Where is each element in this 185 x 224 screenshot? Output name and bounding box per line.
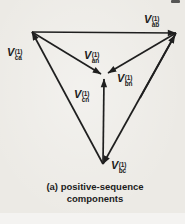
- label-vab-base: V: [144, 13, 151, 25]
- label-van: V(1)an: [84, 45, 99, 64]
- label-vca-sub: ca: [15, 55, 22, 61]
- label-vab-sub: ab: [152, 22, 159, 28]
- label-vbn-base: V: [117, 72, 124, 84]
- label-van-base: V: [84, 49, 91, 61]
- label-vca-base: V: [7, 46, 14, 58]
- label-vbn-sub: bn: [125, 81, 133, 87]
- scanned-figure-page: V(1)ab V(1)ca V(1)an V(1)bn V(1)cn V(1)b…: [0, 0, 185, 224]
- label-vcn: V(1)cn: [74, 84, 89, 103]
- vcn-vector-arrow: [103, 79, 104, 164]
- label-vca: V(1)ca: [7, 42, 22, 61]
- label-vbc-base: V: [111, 159, 118, 171]
- figure-caption-line1: (a) positive-sequence: [10, 181, 180, 193]
- label-vbc: V(1)bc: [111, 155, 126, 174]
- figure-caption-line2: components: [10, 193, 180, 205]
- label-vcn-sub: cn: [82, 97, 89, 103]
- label-van-sub: an: [92, 58, 99, 64]
- label-vbn: V(1)bn: [117, 68, 132, 87]
- label-vcn-base: V: [74, 88, 81, 100]
- label-vbc-sub: bc: [119, 168, 126, 174]
- vab-vector-arrow: [32, 32, 176, 33]
- figure-caption: (a) positive-sequence components: [10, 181, 180, 204]
- label-vab: V(1)ab: [144, 9, 159, 28]
